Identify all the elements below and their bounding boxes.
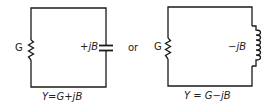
resistor-icon <box>166 38 171 59</box>
left-equation-label: Y=G+jB <box>42 92 82 102</box>
inductor-icon <box>252 26 261 66</box>
capacitor-icon <box>99 46 113 51</box>
right-conductance-label: G <box>154 42 162 52</box>
right-equation-label: Y = G−jB <box>184 91 231 101</box>
resistor-icon <box>29 40 34 60</box>
right-susceptance-label: −jB <box>228 42 246 52</box>
left-conductance-label: G <box>15 43 23 53</box>
left-susceptance-label: +jB <box>80 42 98 52</box>
or-connector-text: or <box>128 43 138 53</box>
